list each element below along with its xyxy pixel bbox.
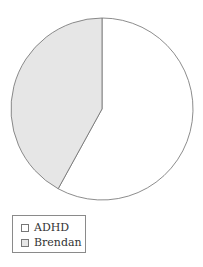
legend-item-brendan: Brendan (21, 236, 82, 249)
legend-label-brendan: Brendan (34, 236, 82, 249)
legend-label-adhd: ADHD (34, 221, 69, 234)
legend-item-adhd: ADHD (21, 221, 69, 234)
legend-swatch-brendan (21, 239, 29, 247)
pie-chart (0, 0, 203, 210)
chart-legend: ADHD Brendan (12, 215, 86, 253)
legend-swatch-adhd (21, 224, 29, 232)
